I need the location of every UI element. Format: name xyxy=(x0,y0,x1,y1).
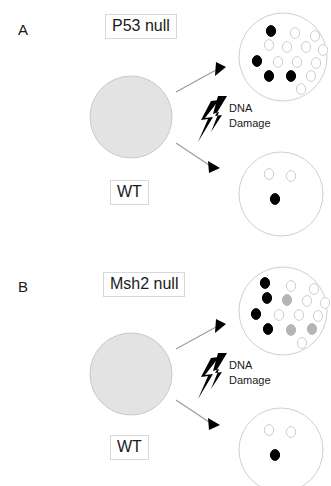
cell-white xyxy=(264,425,273,436)
p53-null-outcome-group xyxy=(239,13,328,101)
cell-white xyxy=(273,57,282,68)
arrow-to-mutant-a xyxy=(176,62,226,92)
cell-white xyxy=(286,171,295,182)
cell-white xyxy=(309,284,318,295)
cell-gray xyxy=(307,324,316,335)
cell-white xyxy=(318,45,327,56)
cell-white xyxy=(264,40,273,51)
cell-white xyxy=(302,296,311,307)
cell-white xyxy=(306,71,315,82)
cell-white xyxy=(296,84,305,95)
cell-black xyxy=(266,26,275,37)
p53-null-outcome-circle xyxy=(239,13,327,101)
cell-gray xyxy=(286,325,295,336)
dna-damage-bolt-icon-a xyxy=(198,96,227,142)
cell-white xyxy=(320,298,329,309)
panel-a: A P53 null WT DNA Damage xyxy=(0,0,331,243)
dna-damage-bolt-icon-b xyxy=(198,353,227,399)
cell-black xyxy=(286,71,295,82)
cell-black xyxy=(270,450,279,461)
panel-b: B Msh2 null WT DNA Damage xyxy=(0,243,331,486)
cell-white xyxy=(274,310,283,321)
cell-white xyxy=(310,31,319,42)
panel-a-graphics xyxy=(0,0,331,243)
arrow-to-wildtype-a xyxy=(176,143,220,173)
cell-white xyxy=(286,281,295,292)
arrow-to-wildtype-b xyxy=(176,400,220,430)
panel-b-graphics xyxy=(0,243,331,486)
cell-white xyxy=(282,42,291,53)
wt-outcome-circle-b xyxy=(239,408,323,486)
wt-outcome-group-a xyxy=(239,152,323,236)
source-cell-population-a xyxy=(90,76,172,158)
cell-black xyxy=(263,324,272,335)
cell-white xyxy=(301,42,310,53)
arrow-to-mutant-b xyxy=(176,319,226,349)
cell-white xyxy=(264,169,273,180)
cell-white xyxy=(311,58,320,69)
figure-root: A P53 null WT DNA Damage xyxy=(0,0,331,486)
cell-black xyxy=(260,278,269,289)
cell-black xyxy=(251,309,260,320)
wt-outcome-circle-a xyxy=(239,152,323,236)
cell-white xyxy=(286,427,295,438)
cell-black xyxy=(264,71,273,82)
cell-white xyxy=(290,28,299,39)
source-cell-population-b xyxy=(90,333,172,415)
cell-white xyxy=(292,57,301,68)
cell-black xyxy=(252,56,261,67)
cell-black xyxy=(270,194,279,205)
cell-black xyxy=(262,293,271,304)
wt-outcome-group-b xyxy=(239,408,323,486)
msh2-null-outcome-group xyxy=(239,267,330,355)
cell-white xyxy=(294,310,303,321)
cell-white xyxy=(297,338,306,349)
cell-white xyxy=(313,311,322,322)
cell-gray xyxy=(282,295,291,306)
